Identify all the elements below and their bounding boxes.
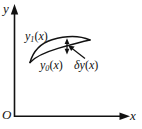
y-axis-label: y [3, 2, 9, 15]
upper-curve-label: y1(x) [25, 30, 48, 44]
variation-leader-line [72, 48, 86, 59]
variation-label: δy(x) [74, 59, 98, 71]
vertical-axis [11, 4, 18, 117]
variation-label-arg: (x) [85, 58, 98, 72]
figure-canvas [0, 0, 142, 129]
variation-label-base: δy [74, 58, 85, 72]
vertical-axis-arrowhead [11, 4, 18, 15]
origin-label: O [2, 108, 11, 121]
x-axis-label: x [130, 109, 136, 122]
variation-arrowhead-top [65, 38, 70, 44]
lower-curve-label-arg: (x) [49, 58, 62, 72]
horizontal-axis-arrowhead [120, 113, 131, 120]
upper-curve-label-arg: (x) [34, 29, 47, 43]
variation-arrowhead-bottom [65, 49, 70, 55]
variational-calculus-figure: y x O y1(x) y0(x) δy(x) [0, 0, 142, 129]
variation-leader-arrow [68, 45, 85, 58]
horizontal-axis [15, 113, 131, 120]
lower-curve-label: y0(x) [40, 59, 63, 73]
